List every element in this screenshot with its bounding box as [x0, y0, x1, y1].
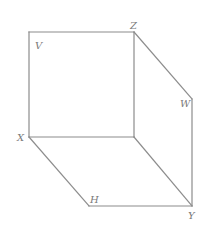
edge-x-h [29, 137, 89, 206]
edge-z-w [134, 32, 192, 99]
label-z: Z [129, 20, 138, 31]
label-v: V [35, 40, 44, 51]
edge-center-y [134, 137, 192, 206]
label-y: Y [188, 210, 196, 221]
label-h: H [89, 194, 99, 205]
label-x: X [16, 132, 25, 143]
edges [29, 32, 192, 206]
geometry-diagram: V Z W X H Y [0, 0, 208, 237]
label-w: W [180, 98, 191, 109]
vertex-labels: V Z W X H Y [16, 20, 196, 221]
